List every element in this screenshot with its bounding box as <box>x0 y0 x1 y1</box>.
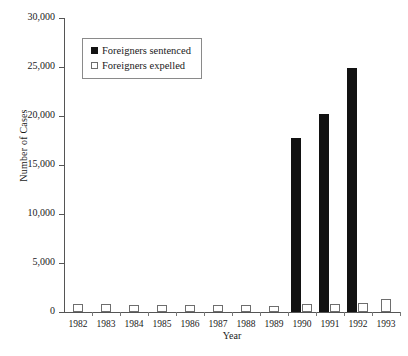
bar-sentenced <box>319 114 329 312</box>
x-tick-label: 1984 <box>120 319 148 329</box>
x-tick-mark <box>232 312 233 316</box>
x-tick-label: 1985 <box>148 319 176 329</box>
x-tick-mark <box>204 312 205 316</box>
x-tick-mark <box>400 312 401 316</box>
legend-label-sentenced: Foreigners sentenced <box>102 45 191 56</box>
bar-expelled <box>73 304 83 312</box>
x-tick-label: 1992 <box>344 319 372 329</box>
y-tick-label: 15,000 <box>28 158 56 169</box>
legend-item-sentenced: Foreigners sentenced <box>91 43 191 58</box>
x-tick-mark <box>288 312 289 316</box>
bar-chart: Number of Cases 05,00010,00015,00020,000… <box>0 0 408 356</box>
x-tick-label: 1990 <box>288 319 316 329</box>
bar-expelled <box>157 305 167 312</box>
y-tick-label: 25,000 <box>28 60 56 71</box>
x-tick-mark <box>148 312 149 316</box>
x-tick-mark <box>120 312 121 316</box>
x-tick-label: 1993 <box>372 319 400 329</box>
x-tick-label: 1988 <box>232 319 260 329</box>
bar-group <box>260 18 288 312</box>
legend-item-expelled: Foreigners expelled <box>91 58 191 73</box>
bar-expelled <box>213 305 223 312</box>
bar-sentenced <box>291 138 301 312</box>
x-tick-label: 1991 <box>316 319 344 329</box>
x-axis-title: Year <box>64 330 400 341</box>
x-tick-mark <box>260 312 261 316</box>
x-tick-label: 1987 <box>204 319 232 329</box>
bar-group <box>316 18 344 312</box>
bar-expelled <box>330 304 340 312</box>
legend-swatch-open-icon <box>91 62 98 69</box>
x-tick-mark <box>92 312 93 316</box>
y-tick-label: 20,000 <box>28 109 56 120</box>
x-tick-label: 1982 <box>64 319 92 329</box>
legend-swatch-filled-icon <box>91 47 98 54</box>
y-tick-label: 0 <box>50 305 55 316</box>
bar-expelled <box>269 306 279 312</box>
x-tick-mark <box>372 312 373 316</box>
x-tick-mark <box>176 312 177 316</box>
x-tick-label: 1983 <box>92 319 120 329</box>
bar-group <box>204 18 232 312</box>
chart-legend: Foreigners sentenced Foreigners expelled <box>82 38 202 79</box>
x-tick-mark <box>316 312 317 316</box>
bar-group <box>232 18 260 312</box>
bar-group <box>288 18 316 312</box>
y-tick-label: 5,000 <box>33 256 56 267</box>
bar-expelled <box>302 304 312 312</box>
bar-expelled <box>358 303 368 312</box>
legend-label-expelled: Foreigners expelled <box>102 60 185 71</box>
x-tick-label: 1989 <box>260 319 288 329</box>
y-tick-label: 10,000 <box>28 207 56 218</box>
y-axis-title: Number of Cases <box>18 76 29 216</box>
bar-expelled <box>185 305 195 312</box>
bar-sentenced <box>347 68 357 312</box>
bar-group <box>372 18 400 312</box>
y-tick-mark <box>59 312 64 313</box>
bar-expelled <box>241 305 251 312</box>
x-tick-label: 1986 <box>176 319 204 329</box>
y-tick-label: 30,000 <box>28 11 56 22</box>
x-tick-mark <box>344 312 345 316</box>
bar-expelled <box>381 299 391 312</box>
bar-expelled <box>101 304 111 312</box>
bar-expelled <box>129 305 139 312</box>
bar-group <box>344 18 372 312</box>
